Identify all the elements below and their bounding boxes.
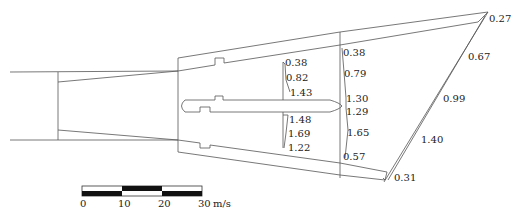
main-body (178, 12, 488, 182)
s1-label-6: 1.22 (288, 142, 310, 153)
outlet-label-2: 0.67 (468, 51, 490, 62)
s2-label-2: 0.79 (344, 68, 366, 79)
scale-tick-10: 10 (118, 198, 131, 209)
outlet-label-3: 0.99 (443, 93, 465, 104)
s2-label-6: 0.57 (343, 151, 365, 162)
s2-label-3: 1.30 (346, 93, 368, 104)
scale-tick-30: 30 (198, 198, 211, 209)
s1-label-5: 1.69 (288, 128, 310, 139)
outlet-label-4: 1.40 (421, 134, 443, 145)
s2-label-1: 0.38 (343, 47, 365, 58)
scale-tick-0: 0 (80, 198, 86, 209)
s1-label-1: 0.38 (285, 57, 307, 68)
central-pier (182, 96, 343, 112)
s1-label-2: 0.82 (286, 72, 308, 83)
scale-tick-20: 20 (158, 198, 171, 209)
velocity-diagram: 0.38 0.82 1.43 1.48 1.69 1.22 0.38 0.79 … (0, 0, 512, 214)
outlet-label-5: 0.31 (394, 172, 416, 183)
inlet-channel (10, 71, 178, 140)
s1-label-3: 1.43 (290, 87, 312, 98)
s2-label-4: 1.29 (346, 106, 368, 117)
outlet-label-1: 0.27 (489, 13, 511, 24)
scale-bar: 0 10 20 30 m/s (80, 186, 231, 209)
s2-label-5: 1.65 (347, 127, 369, 138)
s1-label-4: 1.48 (289, 114, 311, 125)
scale-unit: m/s (213, 198, 231, 209)
